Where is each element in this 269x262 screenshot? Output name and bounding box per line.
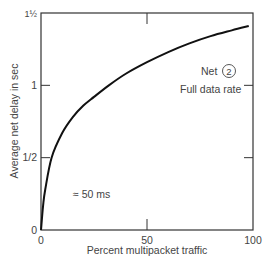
x-tick-label: 0 [38,234,44,246]
y-tick-label: 1/2 [22,151,37,163]
y-tick-label: 1½ [24,9,37,19]
tick-labels: 01/211½050100 [22,9,262,247]
y-axis-label: Average net delay in sec [8,64,20,179]
x-tick-label: 100 [244,234,262,246]
net-label: Net [201,65,217,77]
approx-50ms-label: ≈ 50 ms [73,188,110,200]
x-axis-label: Percent multipacket traffic [87,244,208,256]
line-chart: 01/211½050100 Percent multipacket traffi… [0,0,269,262]
y-tick-label: 0 [31,224,37,236]
full-data-rate-label: Full data rate [180,83,241,95]
net-number: 2 [226,66,231,77]
y-tick-label: 1 [31,79,37,91]
